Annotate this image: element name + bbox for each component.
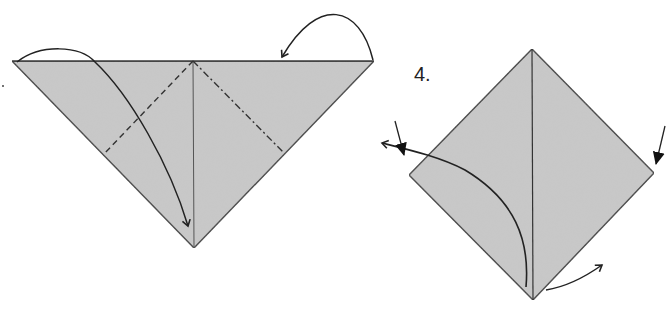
push-left-arrow-icon: [395, 121, 404, 155]
push-right-arrow-icon: [656, 126, 665, 164]
stray-dot: [2, 85, 4, 87]
origami-diagram: [0, 0, 670, 309]
step-4-diamond: [382, 49, 665, 300]
step-3-triangle: [12, 14, 374, 248]
paper-diamond: [409, 49, 654, 300]
fold-behind-arrow-icon: [282, 14, 373, 60]
step-4-label: 4.: [414, 64, 431, 84]
